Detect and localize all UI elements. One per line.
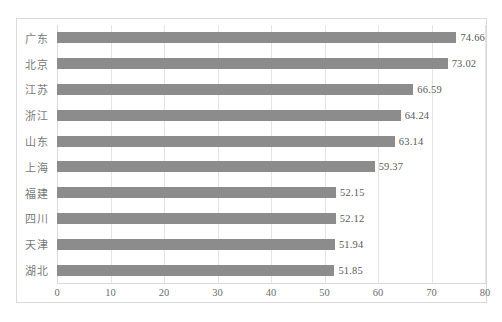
x-tick-50: 50	[319, 286, 330, 300]
category-label-天津: 天津	[16, 231, 57, 257]
bar-上海[interactable]	[57, 161, 375, 172]
plot-area: 74.6673.0266.5964.2463.1459.3752.1552.12…	[57, 25, 485, 283]
bar-value-label: 64.24	[405, 110, 430, 121]
x-tick-10: 10	[105, 286, 116, 300]
bar-北京[interactable]	[57, 58, 448, 69]
bar-广东[interactable]	[57, 32, 456, 43]
bar-四川[interactable]	[57, 213, 336, 224]
category-label-福建: 福建	[16, 180, 57, 206]
bar-value-label: 52.12	[340, 213, 365, 224]
bar-chart-figure: 74.6673.0266.5964.2463.1459.3752.1552.12…	[0, 0, 502, 322]
bar-山东[interactable]	[57, 136, 395, 147]
bar-row: 73.02	[57, 51, 485, 77]
bar-row: 52.15	[57, 180, 485, 206]
x-tick-80: 80	[480, 286, 491, 300]
category-label-四川: 四川	[16, 206, 57, 232]
bar-value-label: 63.14	[399, 136, 424, 147]
x-tick-30: 30	[212, 286, 223, 300]
bar-value-label: 51.85	[338, 265, 363, 276]
x-tick-0: 0	[54, 286, 59, 300]
bar-row: 51.94	[57, 231, 485, 257]
bar-row: 63.14	[57, 128, 485, 154]
bar-value-label: 73.02	[452, 58, 477, 69]
x-axis-line	[57, 283, 486, 284]
bar-row: 51.85	[57, 257, 485, 283]
bar-value-label: 74.66	[460, 32, 485, 43]
category-label-广东: 广东	[16, 25, 57, 51]
category-label-湖北: 湖北	[16, 257, 57, 283]
bar-value-label: 66.59	[417, 84, 442, 95]
bar-row: 59.37	[57, 154, 485, 180]
bar-row: 52.12	[57, 206, 485, 232]
category-label-北京: 北京	[16, 51, 57, 77]
x-tick-20: 20	[159, 286, 170, 300]
x-axis-tick-labels: 01020304050607080	[0, 286, 502, 302]
bar-row: 66.59	[57, 77, 485, 103]
category-label-上海: 上海	[16, 154, 57, 180]
category-label-浙江: 浙江	[16, 102, 57, 128]
bar-天津[interactable]	[57, 239, 335, 250]
x-tick-60: 60	[373, 286, 384, 300]
bar-福建[interactable]	[57, 187, 336, 198]
category-axis-labels: 广东北京江苏浙江山东上海福建四川天津湖北	[16, 25, 57, 283]
bar-row: 64.24	[57, 102, 485, 128]
bar-row: 74.66	[57, 25, 485, 51]
bar-value-label: 59.37	[379, 161, 404, 172]
bar-value-label: 52.15	[340, 187, 365, 198]
gridline-80	[485, 25, 486, 283]
bar-江苏[interactable]	[57, 84, 413, 95]
category-label-江苏: 江苏	[16, 77, 57, 103]
bar-value-label: 51.94	[339, 239, 364, 250]
bar-rows-group: 74.6673.0266.5964.2463.1459.3752.1552.12…	[57, 25, 485, 283]
bar-浙江[interactable]	[57, 110, 401, 121]
category-label-山东: 山东	[16, 128, 57, 154]
x-tick-70: 70	[426, 286, 437, 300]
x-tick-40: 40	[266, 286, 277, 300]
bar-湖北[interactable]	[57, 265, 334, 276]
